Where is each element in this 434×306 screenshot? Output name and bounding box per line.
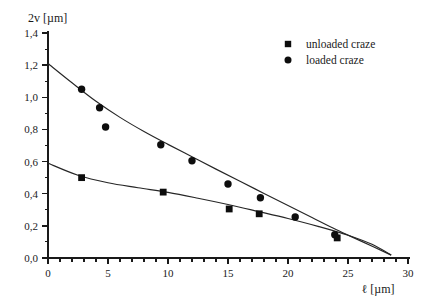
y-tick-label: 0,8 [24, 123, 38, 135]
legend-label: loaded craze [306, 54, 364, 66]
y-tick-label: 0,0 [24, 252, 38, 264]
x-axis-title: ℓ [µm] [362, 282, 395, 296]
y-tick-label: 0,4 [24, 188, 38, 200]
x-tick-label: 15 [223, 267, 235, 279]
x-tick-label: 30 [403, 267, 415, 279]
x-tick-label: 20 [283, 267, 295, 279]
chart-figure: 2v [µm] ℓ [µm] 0510152025300,00,20,40,60… [0, 0, 434, 306]
legend-marker-square [285, 41, 291, 47]
y-axis-title: 2v [µm] [28, 11, 67, 25]
data-point-circle [78, 86, 85, 93]
x-tick-label: 0 [45, 267, 51, 279]
data-point-circle [157, 141, 164, 148]
data-point-square [160, 189, 167, 196]
x-tick-label: 25 [343, 267, 355, 279]
data-point-circle [292, 213, 299, 220]
y-tick-label: 0,2 [24, 220, 38, 232]
data-point-square [226, 206, 233, 213]
data-point-circle [96, 104, 103, 111]
y-tick-label: 0,6 [24, 156, 38, 168]
x-tick-label: 5 [105, 267, 111, 279]
data-point-circle [257, 194, 264, 201]
y-tick-label: 1,4 [24, 27, 38, 39]
data-point-square [78, 174, 85, 181]
data-point-circle [188, 157, 195, 164]
y-axis-title-label: 2v [µm] [28, 11, 67, 25]
y-tick-label: 1,0 [24, 91, 38, 103]
legend-label: unloaded craze [306, 38, 375, 50]
legend-marker-circle [285, 57, 292, 64]
y-tick-label: 1,2 [24, 59, 38, 71]
x-tick-label: 10 [163, 267, 175, 279]
data-point-circle [102, 123, 109, 130]
data-point-circle [331, 231, 338, 238]
x-axis-title-label: ℓ [µm] [362, 282, 395, 296]
craze-displacement-scatter-chart: 2v [µm] ℓ [µm] 0510152025300,00,20,40,60… [0, 0, 434, 306]
data-point-square [256, 210, 263, 217]
data-point-circle [224, 180, 231, 187]
